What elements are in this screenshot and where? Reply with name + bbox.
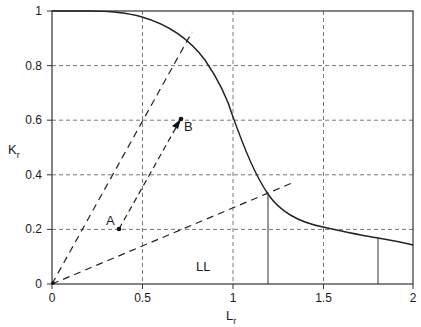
upper-load-line (52, 32, 192, 284)
point-a (117, 227, 122, 232)
point-b (179, 117, 184, 122)
failure-assessment-curve (52, 11, 413, 245)
point-a-label: A (106, 213, 115, 228)
path-a-to-b (119, 124, 178, 229)
x-tick-1: 1 (230, 291, 237, 305)
y-tick-0.6: 0.6 (25, 113, 42, 127)
y-axis-label: Kr (8, 142, 20, 160)
x-axis-label: Lr (226, 308, 236, 326)
y-tick-0.2: 0.2 (25, 222, 42, 236)
x-tick-0: 0 (49, 291, 56, 305)
y-tick-1: 1 (35, 4, 42, 18)
origin-point (51, 281, 55, 285)
y-tick-0: 0 (35, 277, 42, 291)
chart-svg: 0 0.2 0.4 0.6 0.8 1 0 0.5 1 1.5 2 Kr Lr … (0, 0, 421, 327)
y-tick-labels: 0 0.2 0.4 0.6 0.8 1 (25, 4, 42, 291)
grid (52, 11, 413, 284)
tick-marks (47, 11, 413, 289)
y-tick-0.8: 0.8 (25, 59, 42, 73)
plot-frame (52, 11, 413, 284)
point-b-label: B (184, 119, 193, 134)
x-tick-0.5: 0.5 (134, 291, 151, 305)
ll-annotation: LL (196, 259, 210, 274)
x-tick-1.5: 1.5 (315, 291, 332, 305)
x-tick-labels: 0 0.5 1 1.5 2 (49, 291, 417, 305)
x-tick-2: 2 (410, 291, 417, 305)
lower-load-line (52, 183, 292, 284)
y-tick-0.4: 0.4 (25, 168, 42, 182)
